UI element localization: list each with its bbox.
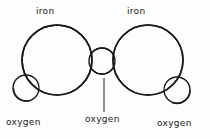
figure-container: iron iron oxygen oxygen oxygen bbox=[0, 0, 210, 139]
label-iron-left: iron bbox=[36, 7, 54, 16]
label-oxygen-middle: oxygen bbox=[85, 115, 120, 124]
label-iron-right: iron bbox=[127, 7, 145, 16]
label-oxygen-left: oxygen bbox=[6, 118, 41, 127]
label-oxygen-right: oxygen bbox=[157, 119, 192, 128]
